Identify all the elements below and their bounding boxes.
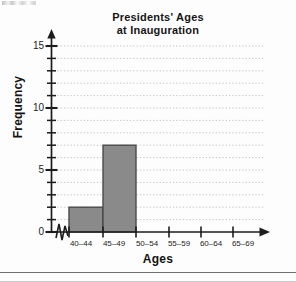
plot-area bbox=[0, 0, 296, 272]
bars bbox=[69, 145, 136, 232]
y-axis-arrow-icon bbox=[47, 29, 55, 39]
y-tick-label-0: 0 bbox=[22, 226, 44, 237]
x-axis-arrow-icon bbox=[260, 227, 271, 236]
x-tick-label-65-69: 65–69 bbox=[224, 239, 262, 248]
y-tick-label-10: 10 bbox=[22, 102, 44, 113]
page-divider bbox=[0, 272, 296, 273]
y-tick-label-5: 5 bbox=[22, 164, 44, 175]
bar-40-44 bbox=[69, 207, 103, 232]
bar-45-49 bbox=[103, 145, 136, 232]
y-tick-label-15: 15 bbox=[22, 40, 44, 51]
chart-page: Presidents' Ages at Inauguration Frequen… bbox=[0, 0, 296, 282]
gridlines bbox=[54, 46, 264, 220]
histogram-chart: Presidents' Ages at Inauguration Frequen… bbox=[0, 0, 296, 272]
